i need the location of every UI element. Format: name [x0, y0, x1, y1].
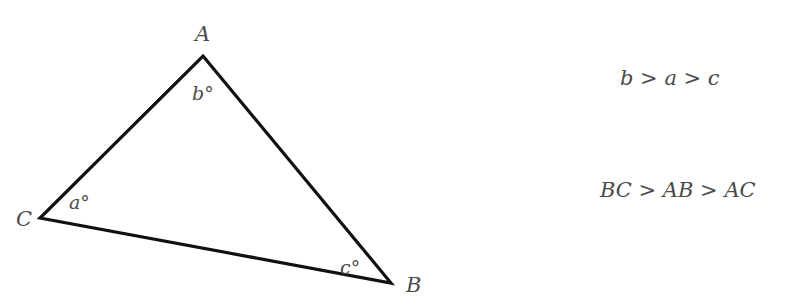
triangle-svg: A B C b° a° c° — [0, 0, 795, 306]
angle-label-a: a° — [69, 191, 90, 213]
angle-relation: b > a > c — [620, 66, 720, 90]
vertex-label-c: C — [16, 207, 32, 231]
angle-label-c: c° — [340, 256, 360, 278]
vertex-label-a: A — [193, 22, 210, 46]
triangle-abc — [40, 56, 391, 283]
side-relation: BC > AB > AC — [600, 178, 756, 202]
angle-label-b: b° — [192, 82, 214, 104]
vertex-label-b: B — [405, 273, 421, 297]
triangle-diagram: A B C b° a° c° — [0, 0, 795, 306]
